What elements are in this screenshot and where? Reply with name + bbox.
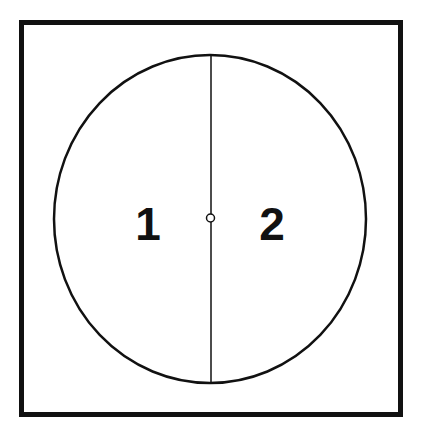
region-1-label: 1 [135,198,161,250]
region-2-label: 2 [259,198,285,250]
center-point [207,214,215,222]
diagram-canvas: 1 2 [0,0,424,439]
